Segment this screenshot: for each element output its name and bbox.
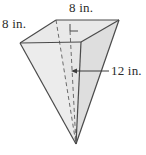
dimension-label-height: 12 in. xyxy=(111,64,142,77)
dimension-label-left-edge: 8 in. xyxy=(2,17,26,30)
geometry-figure: 8 in. 8 in. 12 in. xyxy=(0,0,146,155)
dimension-label-top-edge: 8 in. xyxy=(69,1,93,14)
